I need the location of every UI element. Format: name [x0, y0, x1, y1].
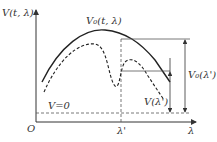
curve-v0-solid — [42, 30, 170, 82]
y-axis-label: V(t, λ) — [2, 7, 34, 18]
v-prime-label: V(λ') — [144, 96, 168, 107]
origin-label: O — [27, 123, 35, 134]
lambda-prime-label: λ' — [116, 125, 126, 136]
diagram-canvas: V(t, λ) V₀(t, λ) V=0 O λ' λ V(λ') V₀(λ') — [0, 0, 217, 142]
curve-v0-label: V₀(t, λ) — [86, 15, 122, 26]
x-axis-label: λ — [187, 125, 194, 136]
baseline-label: V=0 — [48, 100, 71, 111]
v0-prime-label: V₀(λ') — [188, 69, 216, 80]
